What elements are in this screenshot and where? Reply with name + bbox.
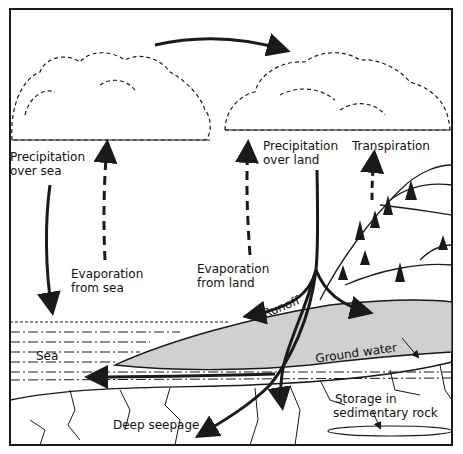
evap-sea-arrow xyxy=(104,145,107,260)
precip-sea-arrow xyxy=(46,185,52,310)
label-evaporation-from-land: Evaporationfrom land xyxy=(197,262,269,290)
water-cycle-illustration xyxy=(0,0,463,454)
label-sea: Sea xyxy=(36,349,58,363)
moisture-transport-arrow xyxy=(155,39,285,50)
label-evaporation-from-sea: Evaporationfrom sea xyxy=(71,267,143,295)
label-precipitation-over-sea: Precipitationover sea xyxy=(10,150,85,178)
groundwater-flow-arrow xyxy=(90,374,275,377)
label-deep-seepage: Deep seepage xyxy=(113,418,199,432)
label-transpiration: Transpiration xyxy=(352,139,430,153)
cloud-over-land xyxy=(225,53,450,130)
cloud-over-sea xyxy=(12,53,211,140)
evap-land-arrow xyxy=(247,145,250,255)
storage-lens xyxy=(328,426,452,436)
trees xyxy=(338,180,448,282)
label-storage-sedimentary-rock: Storage insedimentary rock xyxy=(333,392,438,420)
label-precipitation-over-land: Precipitationover land xyxy=(263,139,338,167)
precip-land-arrow xyxy=(316,170,318,270)
transpiration-arrow xyxy=(372,155,374,200)
